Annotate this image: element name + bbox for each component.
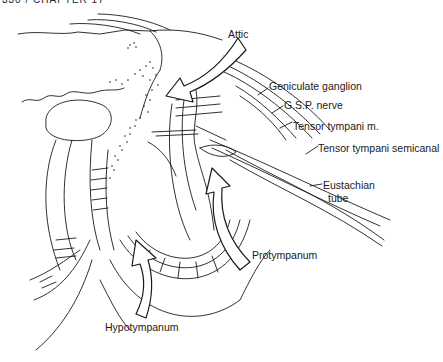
label-eustachian-tube: tube [328, 192, 348, 204]
label-attic: Attic [228, 28, 248, 40]
label-protympanum: Protympanum [252, 249, 317, 261]
label-gsp-nerve: G.S.P. nerve [284, 99, 343, 111]
label-tensor-tympani-m: Tensor tympani m. [293, 120, 379, 132]
anatomy-drawing [0, 0, 443, 362]
label-geniculate-ganglion: Geniculate ganglion [269, 80, 362, 92]
anatomy-figure: 330 / CHAPTER 17 [0, 0, 443, 362]
bone-stipple [109, 42, 159, 179]
label-eustachian: Eustachian [323, 179, 375, 191]
attic-arrow [166, 38, 246, 102]
label-hypotympanum: Hypotympanum [105, 321, 179, 333]
label-tensor-tympani-semicanal: Tensor tympani semicanal [318, 142, 439, 154]
